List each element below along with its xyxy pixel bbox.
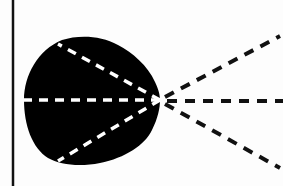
upper-outer-line — [165, 36, 280, 97]
diagram-canvas — [0, 0, 283, 186]
diagram-svg — [0, 0, 283, 186]
outer-dashed-lines — [165, 36, 283, 168]
lower-outer-line — [165, 104, 280, 168]
